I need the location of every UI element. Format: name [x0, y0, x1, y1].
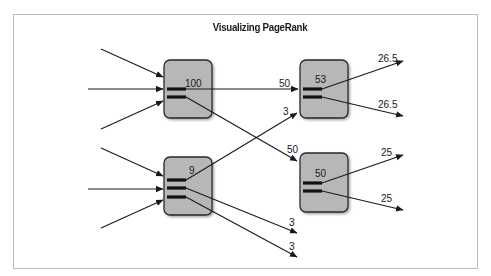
- node-b-box: [164, 157, 212, 215]
- edge-label-b-out-1: 3: [289, 217, 295, 228]
- edge-label-a-c: 50: [279, 78, 291, 89]
- node-c: 53: [300, 60, 348, 118]
- edge-label-c-out-2: 26.5: [378, 99, 398, 110]
- node-a-rank: 100: [185, 78, 202, 89]
- edge-label-c-out-1: 26.5: [378, 53, 398, 64]
- arrow-icon: [101, 101, 163, 129]
- node-d-rank: 50: [315, 168, 327, 179]
- edge-label-d-out-2: 25: [381, 193, 393, 204]
- edge-b-to-c: [186, 113, 297, 180]
- pagerank-diagram: 100 9 53 50 50 50 3 3: [0, 0, 491, 276]
- edge-b-out-2: [186, 197, 297, 257]
- node-b: 9: [164, 157, 212, 215]
- arrow-icon: [101, 148, 163, 176]
- edge-label-d-out-1: 25: [381, 147, 393, 158]
- edge-label-b-c: 3: [283, 106, 289, 117]
- edge-label-b-out-2: 3: [289, 241, 295, 252]
- incoming-edges-b: [88, 148, 163, 228]
- incoming-edges-a: [88, 49, 163, 129]
- edge-label-a-d: 50: [287, 144, 299, 155]
- arrow-icon: [101, 49, 163, 77]
- edge-a-to-d: [186, 97, 297, 161]
- arrow-icon: [101, 200, 163, 228]
- node-b-rank: 9: [189, 165, 195, 176]
- node-c-rank: 53: [315, 74, 327, 85]
